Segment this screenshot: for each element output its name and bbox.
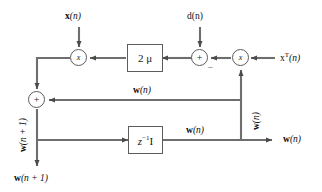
gain-block-label: 2 μ [138, 52, 152, 64]
label-w-middle: w(n) [133, 86, 151, 96]
block-diagram-canvas: x + x + 2 μ z−1I – x(n) d(n) xT(n) w(n) … [0, 0, 322, 192]
label-w-middle-arg: (n) [140, 85, 151, 95]
error-sum-negative-sign: – [208, 61, 213, 71]
label-input-d-arg: (n) [192, 11, 203, 21]
label-w-bottom-base: w [186, 125, 193, 135]
left-multiplier-node[interactable]: x [70, 49, 87, 66]
label-w-output-right-arg: (n) [290, 134, 301, 144]
delay-block-label: z−1I [138, 134, 153, 147]
weight-adder-symbol: + [34, 95, 40, 105]
label-input-x-arg: (n) [70, 11, 81, 21]
label-input-xT: xT(n) [280, 52, 300, 64]
wire-layer [0, 0, 322, 192]
delay-identity-matrix: I [150, 134, 154, 146]
label-w-next-vertical: w(n + 1) [19, 118, 29, 152]
right-multiplier-symbol: x [239, 53, 243, 62]
weight-adder-node[interactable]: + [28, 91, 45, 108]
label-w-bottom: w(n) [186, 126, 204, 136]
label-w-bottom-arg: (n) [193, 125, 204, 135]
label-w-next-output-base: w [14, 173, 21, 183]
label-w-output-right-base: w [283, 134, 290, 144]
label-w-vertical-right: w(n) [252, 112, 262, 130]
left-multiplier-symbol: x [77, 53, 81, 62]
label-w-next-vertical-base: w [18, 145, 28, 152]
label-w-next-output: w(n + 1) [14, 174, 48, 184]
label-w-next-vertical-arg: (n + 1) [18, 118, 28, 145]
wire-left-multiplier-to-weight-adder [37, 58, 70, 89]
label-w-next-output-arg: (n + 1) [21, 173, 48, 183]
error-summing-junction[interactable]: + [191, 49, 208, 66]
error-sum-symbol: + [197, 53, 203, 63]
label-w-vertical-right-arg: (n) [251, 112, 261, 123]
label-input-x: x(n) [65, 12, 81, 22]
gain-block[interactable]: 2 μ [127, 44, 163, 72]
label-w-output-right: w(n) [283, 135, 301, 145]
label-w-middle-base: w [133, 85, 140, 95]
label-w-vertical-right-base: w [251, 123, 261, 130]
delay-block[interactable]: z−1I [128, 126, 163, 154]
delay-exponent: −1 [142, 134, 149, 142]
right-multiplier-node[interactable]: x [232, 49, 249, 66]
label-input-xT-arg: (n) [289, 53, 300, 63]
label-input-d: d(n) [187, 12, 203, 22]
